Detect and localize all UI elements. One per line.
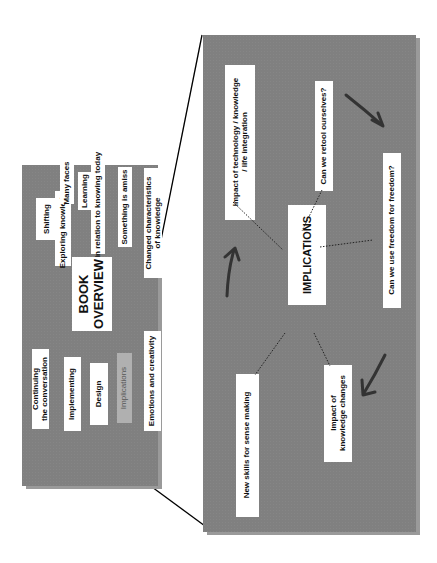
implications-connectors [0, 0, 437, 563]
hand-drawn-arrows [225, 95, 385, 395]
arrow-down-right-icon [346, 95, 382, 125]
arrow-down-left-icon [364, 355, 385, 393]
arrow-up-icon [227, 250, 234, 296]
